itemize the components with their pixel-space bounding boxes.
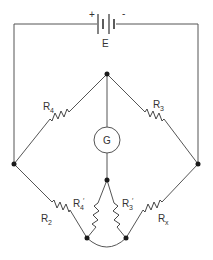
battery-label: E	[102, 38, 109, 49]
svg-text:′: ′	[83, 197, 85, 204]
left-node	[12, 162, 17, 167]
inner-right-arm	[107, 180, 126, 238]
galvanometer-label: G	[103, 135, 111, 146]
upper-right-branch	[107, 74, 198, 164]
label-r4-prime: R 4 ′	[73, 197, 85, 211]
label-r3-prime: R 3 ′	[122, 197, 134, 211]
upper-left-branch	[14, 74, 107, 164]
inner-left-arm	[87, 180, 107, 238]
lower-right-branch	[126, 164, 198, 238]
battery-minus-label: -	[122, 8, 125, 19]
bottom-right-node	[124, 236, 129, 241]
top-node	[105, 72, 110, 77]
svg-text:4: 4	[50, 107, 54, 114]
label-r2: R 2	[41, 213, 52, 226]
svg-text:x: x	[165, 219, 169, 226]
middle-node	[105, 178, 110, 183]
svg-text:3: 3	[129, 204, 133, 211]
right-node	[196, 162, 201, 167]
circuit-diagram: + - E G	[0, 0, 213, 260]
battery-icon	[98, 14, 114, 34]
bottom-link-wire	[87, 238, 126, 247]
svg-text:′: ′	[132, 197, 134, 204]
bottom-left-node	[85, 236, 90, 241]
label-r4: R 4	[43, 101, 54, 114]
svg-text:3: 3	[160, 105, 164, 112]
svg-text:2: 2	[48, 219, 52, 226]
label-rx: R x	[158, 213, 169, 226]
label-r3: R 3	[153, 99, 164, 112]
svg-text:4: 4	[80, 204, 84, 211]
battery-plus-label: +	[89, 9, 95, 20]
